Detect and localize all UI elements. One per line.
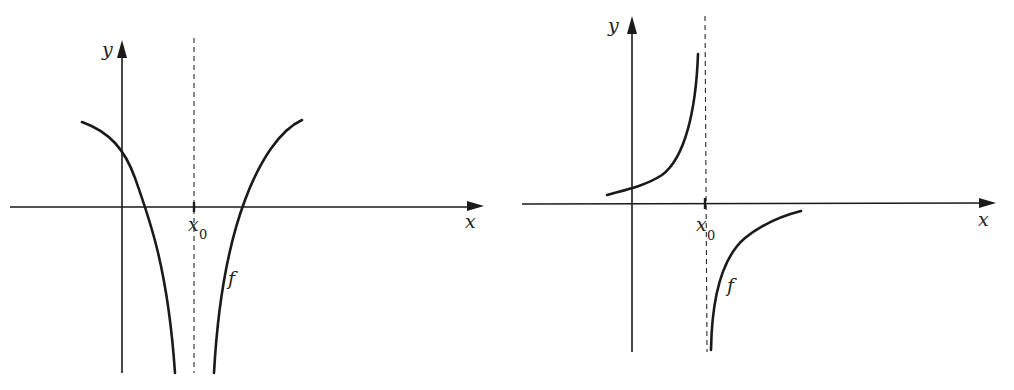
left-graph: y x x 0 f (10, 38, 484, 373)
left-f-label: f (226, 267, 238, 289)
right-asymptote-line (705, 16, 707, 352)
right-y-axis-arrow-icon (627, 16, 637, 34)
right-y-label: y (607, 14, 619, 36)
right-x0-subscript: 0 (707, 228, 715, 243)
left-y-label: y (101, 38, 113, 60)
right-x0-label: x (696, 213, 707, 235)
left-x0-subscript: 0 (199, 227, 207, 242)
left-x-label: x (465, 210, 476, 232)
left-x0-label: x (188, 213, 199, 235)
right-x-label: x (978, 208, 989, 230)
right-x-axis (522, 203, 988, 204)
right-curve-left-branch (607, 54, 698, 195)
figure: y x x 0 f y x x 0 f (0, 0, 1014, 390)
right-f-label: f (725, 274, 737, 296)
left-curve-left-branch (82, 122, 175, 373)
right-x-axis-arrow-icon (979, 198, 996, 208)
right-curve-right-branch (711, 211, 801, 350)
left-curve-right-branch (214, 120, 302, 373)
right-graph: y x x 0 f (522, 14, 996, 352)
left-y-axis-arrow-icon (117, 40, 127, 58)
